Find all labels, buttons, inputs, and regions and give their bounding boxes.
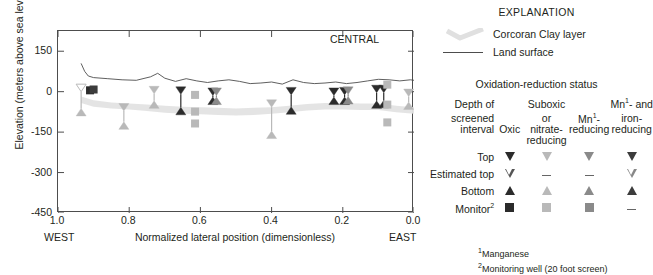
well-top-5 — [176, 87, 186, 95]
corcoran-clay-band — [81, 97, 414, 116]
legend-header-row-4: reducing — [422, 135, 653, 146]
y-tick-label-1: 0 — [46, 85, 52, 97]
legend-row-bottom: Bottom — [422, 180, 653, 197]
well-monitor-8 — [191, 119, 199, 127]
well-monitor-20 — [383, 118, 391, 126]
land-surface-label: Land surface — [493, 46, 554, 58]
legend-row-label-monitor: Monitor2 — [422, 197, 494, 214]
explanation-panel: EXPLANATION Corcoran Clay layer Land sur… — [420, 0, 653, 267]
legend-symbol-monitor-mniron — [610, 197, 653, 214]
well-bottom-11 — [267, 131, 277, 139]
legend-symbol-monitor-suboxic — [525, 197, 568, 214]
well-bottom-21 — [404, 102, 414, 110]
legend-symbol-monitor-mn — [568, 197, 611, 214]
x-axis-west-label: WEST — [44, 231, 74, 243]
well-top-12 — [286, 87, 296, 95]
plot-svg — [58, 31, 414, 213]
footnotes: 1Manganese 2Monitoring well (20 foot scr… — [478, 245, 607, 275]
legend-table: Depth of Suboxic Mn1- and screened or Mn… — [422, 95, 653, 214]
land-surface-line — [81, 63, 414, 84]
legend-row-label-estimated-top: Estimated top — [422, 163, 494, 180]
x-tick-label-2: 0.6 — [192, 214, 207, 226]
well-top-0 — [76, 84, 86, 92]
legend-row-label-bottom: Bottom — [422, 180, 494, 197]
legend-mn-head-blank — [568, 95, 611, 110]
well-top-4 — [149, 86, 159, 94]
legend-mn-head-1: Mn1- — [568, 110, 611, 125]
legend-mn-head-blank2 — [568, 135, 611, 146]
legend-depth-head-1: Depth of — [422, 95, 494, 110]
legend-symbol-top-oxic — [494, 146, 525, 163]
legend-symbol-esttop-oxic — [494, 163, 525, 180]
legend-symbol-esttop-mn — [568, 163, 611, 180]
x-tick-label-4: 0.2 — [334, 214, 349, 226]
legend-depth-head-2: screened — [422, 110, 494, 125]
y-tick-label-2: -150 — [31, 125, 52, 137]
legend-oxic-head-blank2 — [494, 110, 525, 125]
legend-symbol-top-mniron — [610, 146, 653, 163]
legend-mniron-head-3: reducing — [610, 124, 653, 135]
y-tick-label-0: 150 — [34, 44, 52, 56]
legend-row-label-top: Top — [422, 146, 494, 163]
well-bottom-0 — [76, 108, 86, 116]
well-top-11 — [267, 100, 277, 108]
legend-header-row-1: Depth of Suboxic Mn1- and — [422, 95, 653, 110]
x-tick-label-5: 0.0 — [406, 214, 421, 226]
y-axis-title: Elevation (meters above sea level) — [13, 0, 25, 164]
legend-mniron-head-blank — [610, 135, 653, 146]
legend-oxic-head-blank — [494, 95, 525, 110]
panel-label-central: CENTRAL — [330, 33, 379, 45]
land-surface-swatch-icon — [443, 52, 483, 53]
x-tick-label-0: 1.0 — [50, 214, 65, 226]
legend-oxic-head: Oxic — [494, 124, 525, 135]
footnote-1: 1Manganese — [478, 245, 607, 260]
legend-header-row-2: screened or Mn1- iron- — [422, 110, 653, 125]
plot-area — [57, 30, 413, 212]
well-monitor-2 — [90, 86, 98, 94]
legend-suboxic-head-4: reducing — [525, 135, 568, 146]
x-axis-title: Normalized lateral position (dimensionle… — [57, 231, 413, 243]
corcoran-clay-swatch-icon — [446, 28, 484, 42]
legend-mniron-head-2: iron- — [610, 110, 653, 125]
y-axis-tick-labels: 1500-150-300-450 — [0, 30, 52, 212]
legend-suboxic-head-2: or — [525, 110, 568, 125]
y-tick-label-3: -300 — [31, 166, 52, 178]
legend-row-monitor: Monitor2 — [422, 197, 653, 214]
legend-row-estimated-top: Estimated top — [422, 163, 653, 180]
legend-symbol-bottom-suboxic — [525, 180, 568, 197]
legend-depth-head-blank — [422, 135, 494, 146]
legend-symbol-bottom-mniron — [610, 180, 653, 197]
legend-depth-head-3: interval — [422, 124, 494, 135]
legend-symbol-top-suboxic — [525, 146, 568, 163]
well-monitor-19 — [383, 101, 391, 109]
redox-status-title: Oxidation-reduction status — [420, 78, 653, 90]
well-monitor-18 — [383, 81, 391, 89]
x-tick-label-1: 0.8 — [121, 214, 136, 226]
chart-panel: 1500-150-300-450 Elevation (meters above… — [0, 0, 420, 267]
legend-symbol-bottom-oxic — [494, 180, 525, 197]
well-bottom-13 — [329, 97, 339, 105]
legend-symbol-monitor-oxic — [494, 197, 525, 214]
legend-symbol-bottom-mn — [568, 180, 611, 197]
well-top-21 — [404, 89, 414, 96]
legend-oxic-head-blank3 — [494, 135, 525, 146]
legend-symbol-esttop-mniron — [610, 163, 653, 180]
footnote-2: 2Monitoring well (20 foot screen) — [478, 260, 607, 275]
corcoran-clay-label: Corcoran Clay layer — [493, 28, 586, 40]
legend-row-top: Top — [422, 146, 653, 163]
legend-symbol-top-mn — [568, 146, 611, 163]
explanation-title: EXPLANATION — [420, 6, 653, 18]
well-bottom-4 — [149, 101, 159, 109]
x-tick-label-3: 0.4 — [263, 214, 278, 226]
x-axis-tick-labels: 1.00.80.60.40.20.0 — [57, 214, 413, 228]
well-top-13 — [329, 88, 339, 96]
legend-mniron-head-1: Mn1- and — [610, 95, 653, 110]
well-bottom-3 — [119, 122, 129, 130]
x-axis-east-label: EAST — [389, 231, 416, 243]
legend-suboxic-head-1: Suboxic — [525, 95, 568, 110]
well-monitor-6 — [191, 91, 199, 99]
legend-symbol-esttop-suboxic — [525, 163, 568, 180]
well-monitor-7 — [191, 108, 199, 116]
legend-mn-head-2: reducing — [568, 124, 611, 135]
